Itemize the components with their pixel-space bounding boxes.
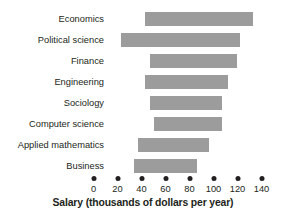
bar: [121, 33, 240, 47]
x-axis-tick-dot: [187, 176, 192, 181]
x-axis: 020406080100120140 Salary (thousands of …: [0, 176, 286, 222]
bar: [134, 159, 196, 173]
bar: [150, 96, 222, 110]
salary-range-bar-chart: Economics Political science Finance Engi…: [0, 0, 286, 222]
plot-area: [0, 0, 286, 176]
x-axis-tick-dot: [235, 176, 240, 181]
x-axis-tick-dot: [115, 176, 120, 181]
bar: [154, 117, 222, 131]
x-axis-tick-dot: [91, 176, 96, 181]
bar: [145, 12, 253, 26]
x-axis-tick-label: 0: [91, 184, 96, 194]
bar: [145, 75, 228, 89]
x-axis-tick-dot: [211, 176, 216, 181]
x-axis-tick-dot: [139, 176, 144, 181]
bar: [150, 54, 238, 68]
x-axis-tick-dot: [163, 176, 168, 181]
x-axis-title: Salary (thousands of dollars per year): [0, 197, 286, 208]
x-axis-tick-label: 20: [112, 184, 122, 194]
x-axis-tick-label: 80: [184, 184, 194, 194]
x-axis-tick-label: 140: [254, 184, 270, 194]
x-axis-tick-dot: [259, 176, 264, 181]
x-axis-tick-label: 60: [160, 184, 170, 194]
x-axis-tick-label: 100: [206, 184, 222, 194]
x-axis-tick-label: 40: [136, 184, 146, 194]
x-axis-tick-label: 120: [230, 184, 246, 194]
bar: [138, 138, 209, 152]
